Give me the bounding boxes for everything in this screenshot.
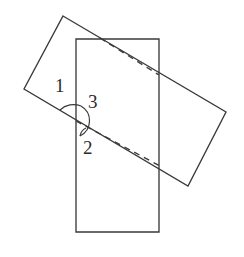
figure-canvas xyxy=(0,0,244,257)
angle-label-1: 1 xyxy=(55,76,65,95)
angle-label-3: 3 xyxy=(88,92,98,111)
angle-1-arc xyxy=(60,105,81,110)
geometry-figure: 1 3 2 xyxy=(0,0,244,257)
angle-label-2: 2 xyxy=(83,138,93,157)
rotated-rectangle xyxy=(24,16,226,186)
